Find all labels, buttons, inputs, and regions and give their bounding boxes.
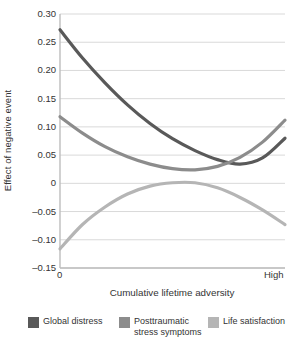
chart-legend: Global distress Posttraumatic stress sym… [0,312,293,352]
series-line-global-distress [60,30,285,164]
chart-plot-area: Effect of negative event 0.30 0.25 0.20 … [0,0,293,300]
legend-label: Posttraumatic stress symptoms [134,316,202,337]
legend-item-global-distress[interactable]: Global distress [28,316,103,328]
x-tick-label-end: High [264,270,284,280]
legend-label: Life satisfaction [223,316,285,327]
legend-item-posttraumatic-stress-symptoms[interactable]: Posttraumatic stress symptoms [119,316,202,337]
x-axis-title: Cumulative lifetime adversity [56,287,288,298]
legend-label: Global distress [43,316,103,327]
legend-swatch-icon [208,317,219,328]
data-series-group [60,30,285,249]
legend-swatch-icon [28,317,39,328]
legend-item-life-satisfaction[interactable]: Life satisfaction [208,316,285,328]
legend-swatch-icon [119,317,130,328]
chart-svg [0,0,293,300]
series-line-life-satisfaction [60,182,285,249]
chart-figure: Effect of negative event 0.30 0.25 0.20 … [0,0,293,352]
x-tick-label-start: 0 [57,270,62,280]
